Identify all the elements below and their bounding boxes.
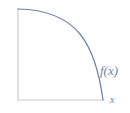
function-curve	[18, 9, 103, 100]
curve-label: f(x)	[100, 64, 118, 77]
function-plot-figure: f(x) x	[0, 0, 130, 113]
x-axis-label: x	[110, 95, 114, 105]
